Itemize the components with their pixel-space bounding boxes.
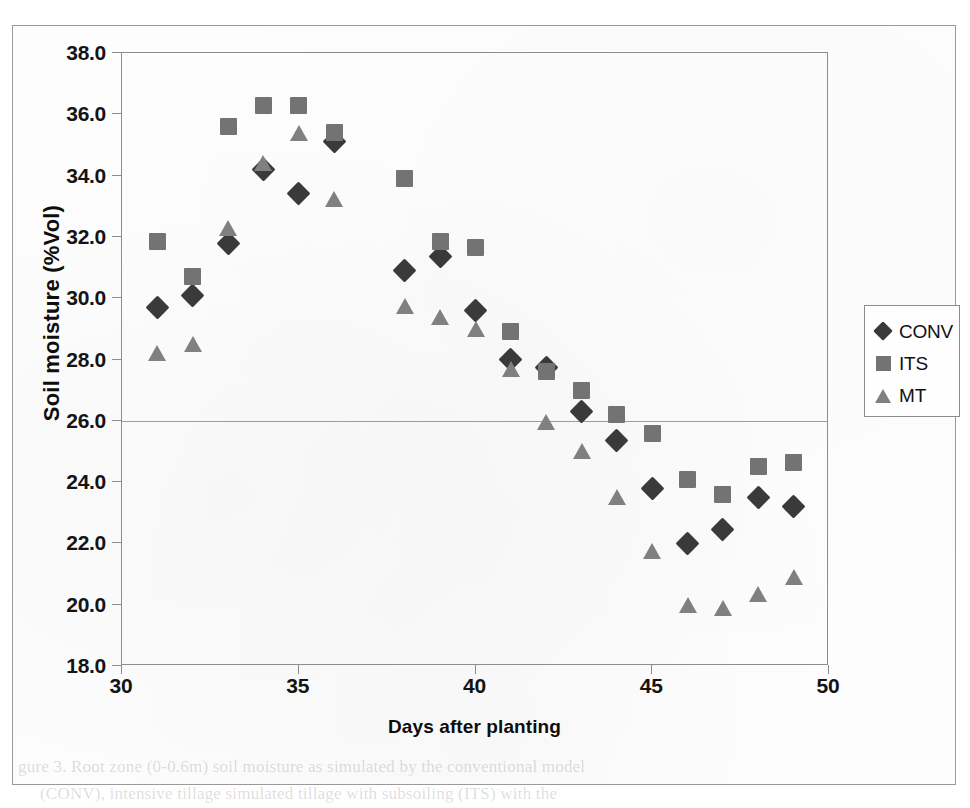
- data-point-conv: [711, 518, 735, 542]
- data-point-conv: [393, 259, 417, 283]
- y-tick-label: 24.0: [40, 471, 106, 492]
- y-tick-label: 30.0: [40, 287, 106, 308]
- scatter-chart: Soil moisture (%Vol) 18.020.022.024.026.…: [0, 0, 970, 808]
- data-point-conv: [145, 295, 169, 319]
- y-tick-label: 38.0: [40, 42, 106, 63]
- x-axis-title: Days after planting: [121, 716, 828, 738]
- plot-area: [121, 52, 828, 665]
- y-tick-mark: [112, 52, 121, 53]
- y-tick-mark: [112, 236, 121, 237]
- x-tick-label: 40: [435, 675, 515, 696]
- data-point-conv: [499, 347, 523, 371]
- data-point-its: [326, 124, 343, 141]
- y-tick-mark: [112, 604, 121, 605]
- data-point-mt: [148, 345, 166, 361]
- data-point-mt: [254, 155, 272, 171]
- legend-item-mt: MT: [874, 379, 959, 411]
- data-point-conv: [782, 495, 806, 519]
- x-tick-mark: [475, 665, 476, 674]
- square-marker-icon: [874, 353, 894, 373]
- data-point-its: [432, 233, 449, 250]
- data-point-its: [396, 170, 413, 187]
- diamond-marker-icon: [874, 321, 894, 341]
- data-point-conv: [676, 531, 700, 555]
- y-tick-mark: [112, 359, 121, 360]
- data-point-mt: [467, 321, 485, 337]
- x-tick-label: 45: [611, 675, 691, 696]
- data-point-mt: [679, 597, 697, 613]
- data-point-mt: [608, 489, 626, 505]
- data-point-conv: [746, 485, 770, 509]
- data-point-mt: [396, 298, 414, 314]
- x-tick-label: 50: [788, 675, 868, 696]
- data-point-mt: [325, 191, 343, 207]
- data-point-conv: [251, 157, 275, 181]
- data-point-mt: [502, 361, 520, 377]
- y-tick-mark: [112, 665, 121, 666]
- data-point-its: [290, 97, 307, 114]
- y-tick-label: 20.0: [40, 594, 106, 615]
- gridline-horizontal: [122, 421, 827, 422]
- data-point-mt: [537, 414, 555, 430]
- data-point-its: [750, 458, 767, 475]
- data-point-conv: [640, 476, 664, 500]
- data-point-conv: [216, 231, 240, 255]
- triangle-marker-icon: [874, 385, 894, 405]
- data-point-conv: [428, 245, 452, 269]
- data-point-its: [255, 97, 272, 114]
- x-tick-mark: [121, 665, 122, 674]
- data-point-its: [538, 363, 555, 380]
- data-point-conv: [605, 429, 629, 453]
- y-tick-label: 32.0: [40, 226, 106, 247]
- data-point-mt: [573, 443, 591, 459]
- data-point-conv: [463, 298, 487, 322]
- data-point-mt: [785, 569, 803, 585]
- data-point-conv: [287, 182, 311, 206]
- legend-item-label: ITS: [899, 354, 928, 373]
- data-point-its: [714, 486, 731, 503]
- data-point-mt: [431, 309, 449, 325]
- x-tick-mark: [828, 665, 829, 674]
- data-point-its: [679, 471, 696, 488]
- legend-item-conv: CONV: [874, 315, 959, 347]
- legend-item-its: ITS: [874, 347, 959, 379]
- x-tick-label: 35: [258, 675, 338, 696]
- data-point-its: [149, 233, 166, 250]
- data-point-its: [573, 382, 590, 399]
- y-tick-label: 34.0: [40, 165, 106, 186]
- legend-item-label: MT: [899, 386, 926, 405]
- y-tick-mark: [112, 542, 121, 543]
- data-point-mt: [749, 586, 767, 602]
- data-point-mt: [219, 220, 237, 236]
- data-point-its: [785, 454, 802, 471]
- y-tick-label: 22.0: [40, 532, 106, 553]
- data-point-its: [467, 239, 484, 256]
- data-point-its: [644, 425, 661, 442]
- y-tick-label: 28.0: [40, 349, 106, 370]
- chart-legend: CONVITSMT: [864, 305, 960, 417]
- x-tick-mark: [298, 665, 299, 674]
- y-tick-mark: [112, 297, 121, 298]
- data-point-conv: [322, 130, 346, 154]
- x-tick-label: 30: [81, 675, 161, 696]
- data-point-mt: [714, 600, 732, 616]
- data-point-conv: [181, 283, 205, 307]
- y-tick-mark: [112, 175, 121, 176]
- x-tick-mark: [651, 665, 652, 674]
- data-point-mt: [184, 336, 202, 352]
- y-tick-label: 18.0: [40, 655, 106, 676]
- data-point-mt: [643, 543, 661, 559]
- data-point-its: [220, 118, 237, 135]
- y-tick-mark: [112, 113, 121, 114]
- data-point-conv: [534, 355, 558, 379]
- y-tick-label: 36.0: [40, 103, 106, 124]
- y-tick-label: 26.0: [40, 410, 106, 431]
- legend-item-label: CONV: [899, 322, 953, 341]
- data-point-mt: [290, 125, 308, 141]
- y-tick-mark: [112, 481, 121, 482]
- y-tick-mark: [112, 420, 121, 421]
- data-point-its: [502, 323, 519, 340]
- data-point-its: [184, 268, 201, 285]
